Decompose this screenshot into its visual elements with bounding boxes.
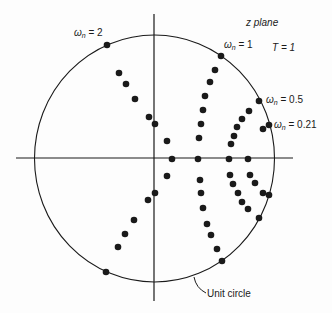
pole-point [235,190,242,197]
pole-point [116,70,123,77]
pole-point [104,42,111,49]
pole-point [152,121,159,128]
pole-point [200,107,207,114]
pole-point [256,98,263,105]
pole-point [231,133,238,140]
pole-point [208,232,215,239]
pole-point [252,180,259,187]
pole-point [202,93,209,100]
pole-point [195,156,202,163]
omega-0.5-label: ωn = 0.5 [266,94,303,109]
pole-point [103,269,110,276]
pole-point [164,138,171,145]
pole-point [230,181,237,188]
pole-point [239,116,246,123]
pole-point [256,215,263,222]
omega-1-label: ωn = 1 [224,39,253,54]
pole-point [212,67,219,74]
pole-point [260,126,267,133]
omega-2-label: ωn = 2 [74,27,103,42]
z-plane-title: z plane [246,17,278,29]
pole-point [145,197,152,204]
pole-point [266,122,273,129]
pole-point [246,108,253,115]
omega-0.21-label: ωn = 0.21 [274,119,317,134]
pole-point [204,221,211,228]
pole-point [132,96,139,103]
pole-point [226,156,233,163]
pole-point [198,190,205,197]
pole-point [245,156,252,163]
pole-point [131,217,138,224]
pole-point [239,199,246,206]
pole-point [266,192,273,199]
pole-point [164,173,171,180]
pole-point [247,172,254,179]
pole-point [123,81,130,88]
pole-point [196,135,203,142]
pole-point [198,121,205,128]
pole-point [200,205,207,212]
pole-point [219,258,226,265]
pole-point [115,244,122,251]
pole-point [214,246,221,253]
pole-point [227,172,234,179]
pole-point [234,124,241,131]
unit-circle-leader [194,277,206,293]
sampling-period-label: T = 1 [272,42,295,54]
pole-point [146,114,153,121]
pole-point [197,177,204,184]
z-plane-diagram: z plane T = 1 ωn = 2 ωn = 1 ωn = 0.5 ωn … [0,0,332,313]
pole-point [260,190,267,197]
pole-point [169,156,176,163]
unit-circle-label: Unit circle [207,288,251,300]
pole-point [152,190,159,197]
pole-point [207,79,214,86]
pole-point [122,231,129,238]
pole-point [245,206,252,213]
pole-point [228,141,235,148]
